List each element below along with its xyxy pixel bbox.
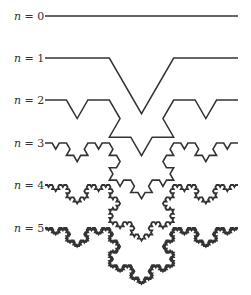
iteration-labels: n = 0n = 1n = 2n = 3n = 4n = 5 [14, 10, 44, 235]
koch-curve-figure: n = 0n = 1n = 2n = 3n = 4n = 5 [0, 0, 251, 295]
koch-curve-n3 [45, 143, 238, 199]
koch-curves [45, 16, 238, 284]
iteration-label-n4: n = 4 [14, 179, 44, 192]
koch-curve-n2 [45, 100, 238, 156]
koch-curve-n5 [45, 228, 238, 284]
koch-curve-n1 [45, 58, 238, 114]
iteration-label-n1: n = 1 [14, 52, 44, 65]
iteration-label-n3: n = 3 [14, 137, 44, 150]
iteration-label-n5: n = 5 [14, 222, 44, 235]
koch-curve-n4 [45, 185, 238, 241]
iteration-label-n0: n = 0 [14, 10, 44, 23]
iteration-label-n2: n = 2 [14, 94, 44, 107]
